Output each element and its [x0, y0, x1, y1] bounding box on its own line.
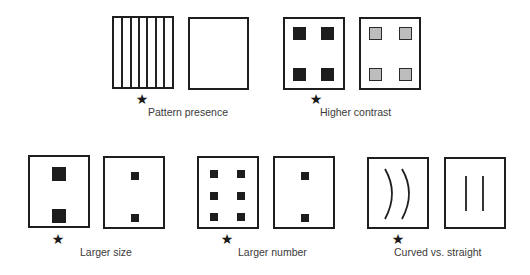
contrast-panel-light [359, 17, 421, 90]
number-panel-six [197, 156, 259, 229]
small-square [131, 172, 139, 180]
number-panel-two [273, 156, 335, 229]
stripe [163, 18, 165, 87]
curvature-panel-straight [444, 157, 506, 229]
small-square [210, 213, 218, 221]
large-square [52, 167, 66, 181]
stripe [130, 18, 132, 87]
small-square [210, 170, 218, 178]
stripe [155, 18, 157, 87]
label-larger-number: Larger number [238, 246, 307, 258]
gray-square [399, 68, 412, 81]
stripe [138, 18, 140, 87]
dark-square [321, 27, 334, 40]
dark-square [321, 68, 334, 81]
large-square [52, 209, 66, 223]
dark-square [293, 68, 306, 81]
star-icon: ★ [221, 232, 234, 246]
label-larger-size: Larger size [80, 246, 132, 258]
small-square [237, 213, 245, 221]
small-square [237, 170, 245, 178]
curved-line [385, 169, 392, 219]
straight-lines [446, 159, 504, 227]
star-icon: ★ [52, 232, 65, 246]
stripe [146, 18, 148, 87]
curved-line [402, 169, 409, 219]
pattern-panel-empty [188, 17, 249, 90]
gray-square [369, 68, 382, 81]
gray-square [399, 27, 412, 40]
stripe [121, 18, 123, 87]
label-curved-vs-straight: Curved vs. straight [394, 246, 482, 258]
pattern-panel-striped [112, 16, 174, 89]
contrast-panel-dark [283, 17, 345, 90]
size-panel-large [28, 155, 90, 228]
gray-square [369, 27, 382, 40]
curvature-panel-curved [367, 157, 429, 229]
star-icon: ★ [136, 92, 149, 106]
small-square [301, 172, 309, 180]
small-square [210, 192, 218, 200]
label-pattern-presence: Pattern presence [148, 106, 228, 118]
curved-lines [369, 159, 427, 227]
star-icon: ★ [310, 92, 323, 106]
size-panel-small [103, 156, 165, 229]
label-higher-contrast: Higher contrast [320, 106, 391, 118]
small-square [131, 214, 139, 222]
small-square [237, 192, 245, 200]
star-icon: ★ [392, 232, 405, 246]
dark-square [293, 27, 306, 40]
small-square [301, 214, 309, 222]
